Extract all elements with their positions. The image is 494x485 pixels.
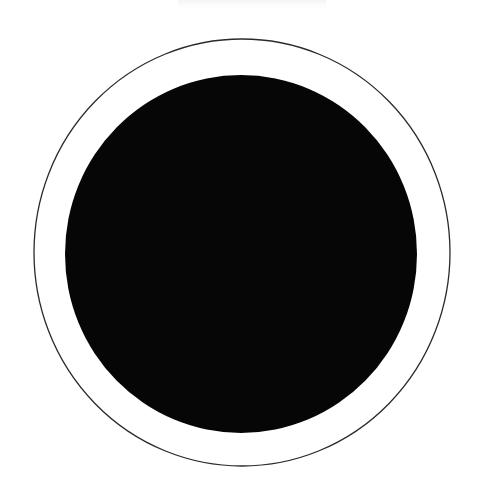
circular-object-figure xyxy=(0,0,494,485)
image-canvas: A large solid black circle centered on a… xyxy=(0,0,494,485)
inner-black-disc xyxy=(65,75,417,433)
